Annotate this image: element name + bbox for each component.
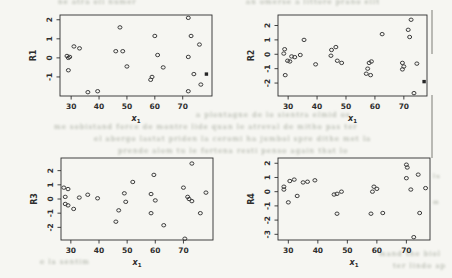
y-axis-label: R2 [247,50,256,62]
y-axis-tick-label: -2 [263,79,272,87]
data-point [66,187,70,190]
data-point [295,194,299,197]
y-axis-tick-label: -3 [263,230,272,238]
scatter-plot-r1: 3040506070-1012R1x1 [16,6,224,132]
data-point [153,199,157,202]
data-point [96,90,100,93]
data-point [186,90,190,93]
ghost-text-line: prende alom tu le fortena resti penso ag… [118,147,348,155]
x-axis-label: x1 [132,258,142,268]
ghost-text-line: e la sentim [40,258,90,266]
data-point [408,35,412,38]
scatter-plot-r3: 3040506070-2-1012R3x1 [17,149,225,276]
y-axis-tick-label: -1 [263,202,272,210]
data-point [189,34,193,37]
data-point [404,176,408,179]
data-point [424,186,428,189]
y-axis-label: R3 [30,193,39,205]
data-point [181,186,185,189]
data-point [375,187,379,190]
x-axis-tick-label: 50 [122,246,132,255]
data-point [334,45,338,48]
x-axis-tick-label: 40 [312,102,322,111]
data-point [204,191,208,194]
x-axis-tick-label: 50 [341,102,351,111]
y-axis-tick-label: -2 [263,216,272,224]
data-point [63,195,67,198]
data-point [149,192,153,195]
scan-smudge [431,95,433,158]
data-point [161,66,165,69]
y-axis-tick-label: 2 [263,23,272,28]
y-axis-tick-label: 0 [46,196,55,201]
data-point [186,55,190,58]
ghost-text-line: an omerse a littore prano ellt [246,0,380,6]
data-point [286,201,290,204]
data-point [77,196,81,199]
data-point [335,59,339,62]
y-axis-tick-label: 2 [45,17,54,22]
data-point [124,200,128,203]
x-axis-label: x1 [349,258,359,268]
data-point [152,173,156,176]
data-point [330,48,334,51]
data-point [125,65,129,68]
data-point [72,45,76,48]
data-point [192,72,196,75]
x-axis-tick-label: 50 [342,246,352,255]
data-point [369,212,373,215]
data-point [190,199,194,202]
y-axis-tick-label: 2 [263,161,272,166]
data-point [114,220,118,223]
data-point [153,34,157,37]
x-axis-tick-label: 60 [150,246,160,255]
ghost-text-line: ter lindo ap [393,262,446,270]
data-point [301,181,305,184]
data-point [313,179,317,182]
data-point [380,32,384,35]
data-point [122,192,126,195]
x-axis-tick-label: 60 [150,102,160,111]
x-axis-tick-label: 60 [370,102,380,111]
ghost-text-line: me sobistand force de montre lide quan l… [54,123,358,131]
ghost-text-line: m [433,198,440,205]
data-point [78,47,82,50]
y-axis-tick-label: 2 [46,168,55,173]
y-axis-tick-label: -1 [263,64,272,72]
x-axis-tick-label: 30 [283,102,293,111]
data-point [186,16,190,19]
data-point [282,52,286,55]
data-point [96,197,100,200]
ghost-text-line: lu [433,172,441,179]
ghost-text-line: el abergo lastat priden la ceromi ha jum… [94,135,371,143]
data-point [381,211,385,214]
data-point [156,53,160,56]
x-axis-tick-label: 40 [313,246,323,255]
scan-smudge [431,10,433,54]
x-axis-tick-label: 40 [94,246,104,255]
data-point [409,188,413,191]
data-point-filled [422,80,425,83]
x-axis-tick-label: 70 [177,102,187,111]
x-axis-tick-label: 70 [399,102,409,111]
data-point [416,173,420,176]
x-axis-tick-label: 40 [94,102,104,111]
plot-frame [278,158,430,240]
x-axis-tick-label: 30 [66,246,76,255]
data-point [412,235,416,238]
x-axis-tick-label: 50 [122,102,132,111]
y-axis-tick-label: 1 [46,182,55,187]
data-point [62,186,66,189]
x-axis-tick-label: 30 [283,246,293,255]
y-axis-tick-label: -1 [45,73,54,81]
y-axis-tick-label: 0 [45,55,54,60]
data-point [66,69,70,72]
data-point [288,179,292,182]
data-point [162,224,166,227]
y-axis-tick-label: -1 [46,209,55,217]
data-point [409,18,413,21]
data-point [298,53,302,56]
data-point [117,209,121,212]
data-point [292,178,296,181]
data-point [72,207,76,210]
